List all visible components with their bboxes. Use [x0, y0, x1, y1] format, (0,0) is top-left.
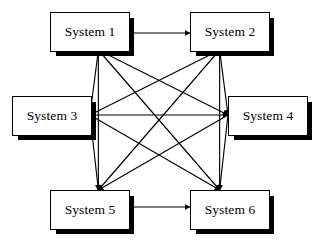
node-system-5[interactable]: System 5 [50, 190, 128, 228]
node-label-system-1: System 1 [65, 25, 116, 39]
node-system-3[interactable]: System 3 [12, 96, 90, 134]
node-system-1[interactable]: System 1 [50, 12, 128, 50]
node-box: System 2 [190, 12, 270, 52]
edge-system-3-to-system-6 [90, 115, 220, 190]
edge-system-2-to-system-4 [220, 50, 228, 115]
edge-system-1-to-system-4 [98, 50, 228, 115]
node-box: System 1 [50, 12, 130, 52]
node-box: System 5 [50, 190, 130, 230]
node-system-4[interactable]: System 4 [228, 96, 306, 134]
node-label-system-4: System 4 [243, 109, 294, 123]
edge-system-2-to-system-3 [90, 50, 220, 115]
edges-group [90, 33, 228, 207]
node-label-system-5: System 5 [65, 203, 116, 217]
node-box: System 4 [228, 96, 308, 136]
node-system-2[interactable]: System 2 [190, 12, 268, 50]
system-mesh-diagram: System 1 System 2 System 3 System 4 Syst… [0, 0, 328, 243]
node-box: System 3 [12, 96, 92, 136]
node-label-system-2: System 2 [205, 25, 256, 39]
node-label-system-6: System 6 [205, 203, 256, 217]
node-box: System 6 [190, 190, 270, 230]
node-label-system-3: System 3 [27, 109, 78, 123]
edge-system-4-to-system-5 [98, 115, 228, 190]
edge-system-4-to-system-6 [220, 115, 228, 190]
node-system-6[interactable]: System 6 [190, 190, 268, 228]
